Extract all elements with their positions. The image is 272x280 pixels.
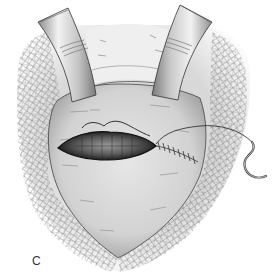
surgical-illustration <box>0 0 272 280</box>
figure-canvas: C <box>0 0 272 280</box>
curved-needle <box>245 142 266 178</box>
panel-label: C <box>32 254 41 268</box>
